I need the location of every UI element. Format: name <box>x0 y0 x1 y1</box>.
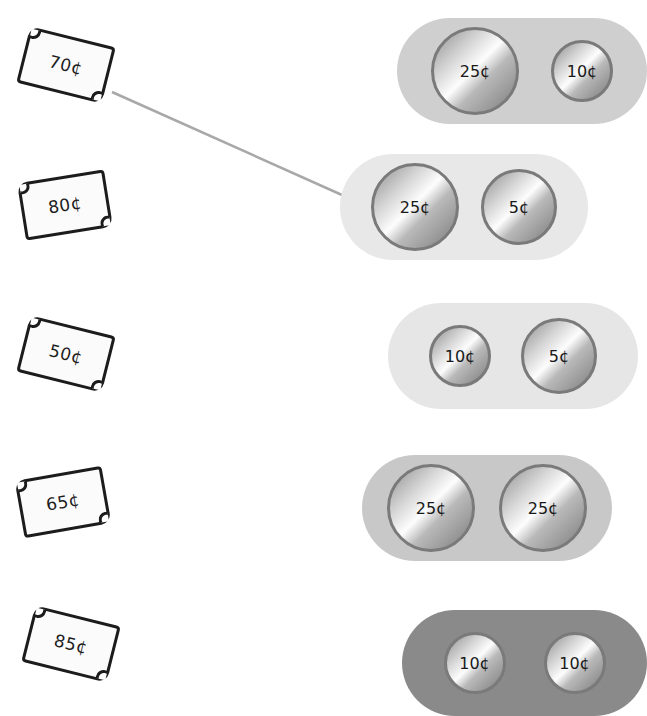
price-ticket-80[interactable]: 80¢ <box>17 169 113 240</box>
ticket-label: 70¢ <box>47 51 85 79</box>
coin-group-25-5[interactable]: 25¢ 5¢ <box>340 154 588 260</box>
coin-label: 10¢ <box>567 62 598 81</box>
coin-label: 5¢ <box>549 347 569 366</box>
coin-nickel: 5¢ <box>481 169 557 245</box>
price-ticket-70[interactable]: 70¢ <box>16 26 115 104</box>
coin-label: 5¢ <box>509 198 529 217</box>
coin-label: 25¢ <box>416 499 447 518</box>
coin-dime: 10¢ <box>551 40 613 102</box>
coin-quarter: 25¢ <box>387 464 475 552</box>
coin-label: 10¢ <box>559 654 590 673</box>
ticket-label: 50¢ <box>47 340 85 368</box>
coin-label: 25¢ <box>528 499 559 518</box>
coin-group-10-5[interactable]: 10¢ 5¢ <box>388 303 638 409</box>
coin-group-25-10[interactable]: 25¢ 10¢ <box>397 18 647 124</box>
coin-label: 25¢ <box>400 198 431 217</box>
coin-nickel: 5¢ <box>521 318 597 394</box>
coin-label: 10¢ <box>445 347 476 366</box>
coin-dime: 10¢ <box>544 632 606 694</box>
coin-label: 25¢ <box>460 62 491 81</box>
ticket-label: 80¢ <box>47 192 84 217</box>
price-ticket-50[interactable]: 50¢ <box>16 315 115 393</box>
ticket-label: 85¢ <box>52 630 90 658</box>
coin-quarter: 25¢ <box>371 163 459 251</box>
coin-quarter: 25¢ <box>431 27 519 115</box>
ticket-label: 65¢ <box>45 489 82 515</box>
price-ticket-85[interactable]: 85¢ <box>21 605 120 683</box>
coin-label: 10¢ <box>459 654 490 673</box>
coin-quarter: 25¢ <box>499 464 587 552</box>
coin-dime: 10¢ <box>429 325 491 387</box>
coin-group-25-25[interactable]: 25¢ 25¢ <box>362 455 612 561</box>
coin-group-10-10[interactable]: 10¢ 10¢ <box>402 610 647 716</box>
coin-dime: 10¢ <box>444 632 506 694</box>
price-ticket-65[interactable]: 65¢ <box>15 466 112 538</box>
